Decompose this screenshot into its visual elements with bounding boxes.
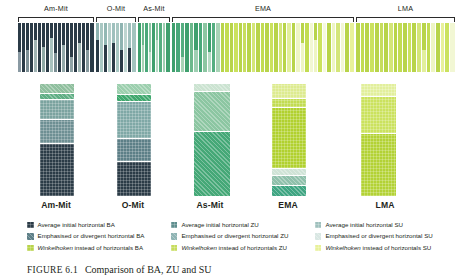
bar xyxy=(90,23,94,72)
bar-segment xyxy=(341,23,344,72)
legend-item: Emphasised or divergent horizontal ZU xyxy=(171,233,315,240)
bracket-label-row: Am-MitO-MitAs-MitEMALMA xyxy=(0,4,463,17)
bar xyxy=(450,23,455,72)
legend-swatch-icon xyxy=(315,222,322,229)
bar-segment xyxy=(247,23,250,72)
summary-column-ema xyxy=(272,84,306,196)
bar-segment xyxy=(327,23,330,72)
column-label-o-mit: O-Mit xyxy=(96,200,170,210)
bar-segment xyxy=(431,23,435,72)
bar-segment xyxy=(384,23,388,72)
bar-segment xyxy=(120,50,123,72)
legend-swatch-icon xyxy=(171,233,178,240)
bar-segment xyxy=(194,50,197,72)
bar-segment xyxy=(412,23,416,72)
bar-segment xyxy=(194,23,197,50)
legend-label: Emphasised or divergent horizontal ZU xyxy=(181,233,288,239)
bar-segment xyxy=(149,52,152,72)
bar-segment xyxy=(370,23,374,72)
legend-swatch-icon xyxy=(27,233,34,240)
bar-segment xyxy=(66,23,69,72)
figure-number: FIGURE 6.1 xyxy=(27,265,78,275)
bar-group-lma xyxy=(356,23,455,72)
bar-segment xyxy=(239,23,242,72)
bar-segment xyxy=(190,23,193,72)
legend-label: Winkelhoken instead of horizontals ZU xyxy=(181,245,287,251)
bar-segment xyxy=(78,43,81,72)
bar-segment xyxy=(398,23,402,72)
bracket-label-o-mit: O-Mit xyxy=(96,4,136,13)
bracket-am-mit xyxy=(18,17,94,22)
bar-segment xyxy=(90,23,94,72)
bar-segment xyxy=(287,23,290,72)
summary-blocks xyxy=(0,84,463,196)
bar-band xyxy=(0,23,463,72)
bar-segment xyxy=(417,23,421,72)
bar-segment xyxy=(124,23,127,72)
bar-segment xyxy=(234,23,237,72)
bar-segment xyxy=(86,23,89,50)
legend-swatch-icon xyxy=(171,222,178,229)
summary-segment xyxy=(117,139,151,163)
bar-segment xyxy=(42,23,45,47)
bar-segment xyxy=(156,23,159,40)
bar-segment xyxy=(292,23,295,72)
legend-swatch-icon xyxy=(315,233,322,240)
bar-segment xyxy=(314,40,317,72)
bar-segment xyxy=(145,23,148,72)
bar-segment xyxy=(225,23,228,72)
legend-item: Winkelhoken instead of horizontals BA xyxy=(27,245,171,252)
bar-segment xyxy=(441,23,445,72)
bar-segment xyxy=(296,23,299,72)
bar-segment xyxy=(216,23,219,72)
summary-segment xyxy=(40,144,74,196)
bar-segment xyxy=(270,23,273,72)
bar-segment xyxy=(163,23,166,72)
bar-segment xyxy=(34,23,37,40)
bracket-label-ema: EMA xyxy=(172,4,354,13)
bar-segment xyxy=(185,23,188,72)
legend-label: Average initial horizontal BA xyxy=(38,222,115,228)
legend-item: Winkelhoken instead of horizontals SU xyxy=(315,245,457,252)
bar-segment xyxy=(252,23,255,72)
bar-segment xyxy=(34,40,37,72)
legend: Average initial horizontal BAAverage ini… xyxy=(27,219,457,254)
bar-segment xyxy=(203,23,206,72)
summary-segment xyxy=(194,92,230,132)
bar-group-as-mit xyxy=(138,23,170,72)
bar-segment xyxy=(38,23,41,72)
column-label-lma: LMA xyxy=(340,200,430,210)
bar-segment xyxy=(50,23,53,38)
bar-segment xyxy=(78,23,81,43)
bar-segment xyxy=(279,23,282,72)
column-label-am-mit: Am-Mit xyxy=(18,200,94,210)
bar-segment xyxy=(120,23,123,50)
legend-swatch-icon xyxy=(315,245,322,252)
summary-segment xyxy=(194,132,230,196)
legend-label: Average initial horizontal ZU xyxy=(181,222,258,228)
bar-segment xyxy=(301,43,304,72)
bar-group-am-mit xyxy=(18,23,94,72)
summary-segment xyxy=(40,84,74,94)
bar-segment xyxy=(221,23,224,72)
bar-segment xyxy=(230,23,233,72)
legend-item: Emphasised or divergent horizontal BA xyxy=(27,233,171,240)
legend-swatch-icon xyxy=(27,245,34,252)
legend-item: Winkelhoken instead of horizontals ZU xyxy=(171,245,315,252)
column-label-row: Am-MitO-MitAs-MitEMALMA xyxy=(0,200,463,214)
summary-segment xyxy=(40,100,74,120)
bar-segment xyxy=(274,23,277,72)
bar-segment xyxy=(314,23,317,40)
bar-segment xyxy=(30,23,33,72)
bar-segment xyxy=(100,23,103,72)
bar-segment xyxy=(50,38,53,72)
bar-segment xyxy=(18,23,21,52)
summary-segment xyxy=(361,97,396,134)
legend-item: Emphasised or divergent horizontal SU xyxy=(315,233,457,240)
figure-caption: FIGURE 6.1Comparison of BA, ZU and SU xyxy=(27,264,212,275)
bar xyxy=(166,23,170,72)
summary-segment xyxy=(40,120,74,145)
bracket-ema xyxy=(172,17,354,22)
summary-segment xyxy=(361,84,396,97)
legend-item: Average initial horizontal BA xyxy=(27,222,171,229)
